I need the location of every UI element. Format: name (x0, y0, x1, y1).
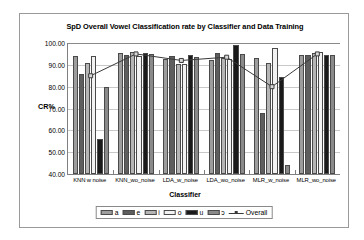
y-axis-tick-label: 90.00 (48, 61, 65, 68)
bar-group (249, 43, 294, 174)
bar-a (209, 60, 214, 174)
y-axis-tick-label: 40.00 (48, 171, 65, 178)
x-axis-tick-label: MLR_wo_noise (294, 177, 339, 183)
x-axis-tick-label: KNN w noise (67, 177, 112, 183)
bar-e (260, 113, 265, 174)
x-axis-tick-label: LDA_w_noise (158, 177, 203, 183)
bar-o (227, 59, 232, 174)
legend-item-label: i (158, 209, 160, 216)
bar-group (68, 43, 113, 174)
bar-i (85, 63, 90, 174)
bar-a (299, 55, 304, 174)
y-axis-tick-label: 50.00 (48, 149, 65, 156)
bar-i (312, 53, 317, 174)
bar-i (266, 63, 271, 174)
legend-item-label: e (136, 209, 140, 216)
bar-groups (68, 43, 340, 174)
legend-item[interactable]: ɔ (207, 209, 224, 216)
bar-group (159, 43, 204, 174)
bar-u (279, 77, 284, 174)
legend-item[interactable]: e (122, 209, 140, 216)
bar-a (118, 53, 123, 174)
y-axis-tick-label: 70.00 (48, 105, 65, 112)
bar-a (254, 58, 259, 174)
legend-item-label: u (200, 209, 204, 216)
x-axis-title: Classifier (20, 191, 349, 198)
legend-item[interactable]: o (164, 209, 182, 216)
bar-ɔ (104, 87, 109, 174)
legend-swatch-icon (101, 210, 113, 216)
legend-swatch-icon (207, 210, 219, 216)
legend-item[interactable]: a (101, 209, 119, 216)
bar-ɔ (194, 57, 199, 174)
chart-legend: aeiouɔOverall (96, 206, 273, 219)
legend-item-label: o (178, 209, 182, 216)
bar-i (130, 52, 135, 174)
chart-title: SpD Overall Vowel Classification rate by… (20, 22, 349, 31)
x-axis-tick-label: MLR_w_noise (248, 177, 293, 183)
bar-u (324, 55, 329, 174)
legend-swatch-icon (186, 210, 198, 216)
y-axis-tick-label: 60.00 (48, 127, 65, 134)
legend-item-label: Overall (246, 209, 268, 216)
legend-swatch-icon (122, 210, 134, 216)
bar-group (204, 43, 249, 174)
bar-e (169, 56, 174, 174)
bar-ɔ (285, 165, 290, 174)
bar-a (163, 59, 168, 174)
bar-o (318, 52, 323, 174)
legend-item-label: ɔ (221, 209, 224, 216)
legend-swatch-icon (164, 210, 176, 216)
bar-u (97, 139, 102, 174)
legend-item-label: a (115, 209, 119, 216)
bar-ɔ (330, 55, 335, 174)
bar-i (221, 58, 226, 174)
y-axis-tick-label: 100.00 (45, 40, 65, 47)
bar-u (188, 55, 193, 174)
bar-i (176, 64, 181, 174)
chart-container: SpD Overall Vowel Classification rate by… (19, 13, 349, 228)
legend-item[interactable]: i (144, 209, 160, 216)
plot-area: 100.0090.0080.0070.0060.0050.0040.00 (67, 43, 340, 175)
bar-e (79, 74, 84, 174)
legend-item[interactable]: Overall (229, 209, 268, 216)
bar-group (113, 43, 158, 174)
bar-u (143, 53, 148, 174)
bar-ɔ (149, 54, 154, 174)
bar-u (233, 45, 238, 174)
legend-item[interactable]: u (186, 209, 204, 216)
bar-e (305, 55, 310, 174)
x-axis-labels: KNN w noiseKNN_wo_noiseLDA_w_noiseLDA_wo… (67, 177, 339, 183)
bar-ɔ (240, 54, 245, 174)
bar-o (272, 48, 277, 174)
legend-swatch-icon (144, 210, 156, 216)
bar-group (295, 43, 340, 174)
bar-e (215, 53, 220, 174)
y-axis-tick-label: 80.00 (48, 83, 65, 90)
x-axis-tick-label: LDA_wo_noise (203, 177, 248, 183)
bar-o (91, 56, 96, 174)
bar-o (136, 56, 141, 174)
bar-o (182, 64, 187, 174)
x-axis-tick-label: KNN_wo_noise (112, 177, 157, 183)
legend-line-swatch-icon (229, 210, 244, 216)
bar-e (124, 55, 129, 174)
bar-a (73, 56, 78, 174)
